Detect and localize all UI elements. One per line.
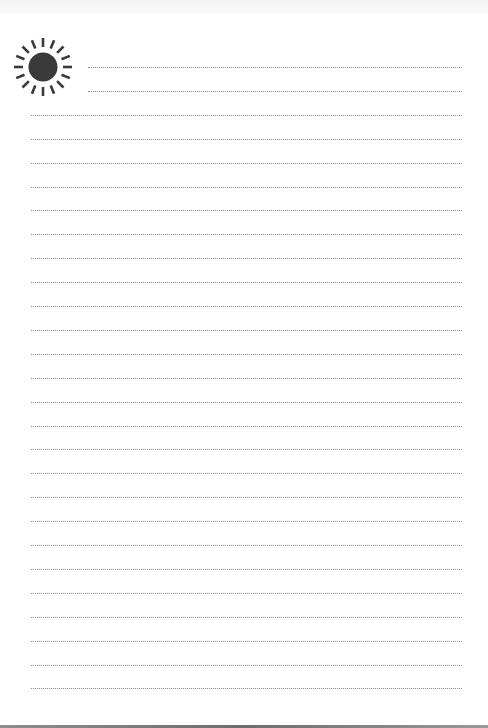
writing-line	[31, 497, 462, 498]
writing-line	[31, 163, 462, 164]
writing-lines	[0, 0, 488, 728]
writing-line	[31, 210, 462, 211]
writing-line	[31, 688, 462, 689]
writing-line	[88, 67, 462, 68]
writing-line	[31, 354, 462, 355]
writing-line	[88, 91, 462, 92]
writing-line	[31, 641, 462, 642]
writing-line	[31, 282, 462, 283]
writing-line	[31, 139, 462, 140]
writing-line	[31, 258, 462, 259]
writing-line	[31, 402, 462, 403]
writing-line	[31, 617, 462, 618]
writing-line	[31, 378, 462, 379]
writing-line	[31, 473, 462, 474]
writing-line	[31, 665, 462, 666]
writing-line	[31, 545, 462, 546]
writing-line	[31, 593, 462, 594]
writing-line	[31, 569, 462, 570]
writing-line	[31, 426, 462, 427]
writing-line	[31, 187, 462, 188]
writing-line	[31, 521, 462, 522]
writing-line	[31, 306, 462, 307]
writing-line	[31, 234, 462, 235]
writing-line	[31, 115, 462, 116]
writing-line	[31, 449, 462, 450]
writing-line	[31, 330, 462, 331]
